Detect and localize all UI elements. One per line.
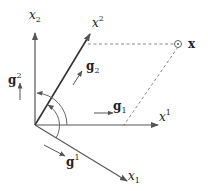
label-x-upper-1: x1	[159, 108, 171, 124]
vector-g-upper-1-arrow	[44, 145, 65, 156]
oblique-coordinates-diagram: x2 x2 x1 x1 g2 g2 g1 g1 x	[0, 0, 208, 191]
label-x-lower-2: x2	[29, 8, 41, 24]
label-g-lower-2: g2	[86, 59, 99, 75]
label-g-upper-1: g1	[66, 153, 79, 169]
label-g-lower-1: g1	[113, 99, 126, 115]
axis-x-lower-1	[35, 125, 127, 181]
label-x-upper-2: x2	[92, 14, 104, 30]
angle-arc-outer	[37, 93, 67, 125]
vector-g-lower-2-arrow	[73, 71, 82, 85]
angle-arc-inner	[48, 105, 60, 138]
axis-x-upper-2	[35, 34, 90, 125]
label-point-x: x	[188, 37, 196, 51]
point-x-marker-icon	[175, 41, 182, 48]
label-x-lower-1: x1	[128, 169, 140, 185]
label-g-upper-2: g2	[8, 71, 21, 87]
